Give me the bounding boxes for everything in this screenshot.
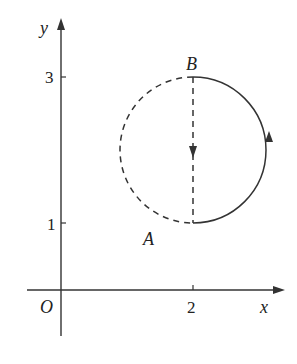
y-axis-label: y bbox=[38, 18, 48, 38]
coordinate-diagram: y x O 3 1 2 B A bbox=[0, 0, 297, 364]
x-axis-arrow-icon bbox=[273, 286, 285, 294]
x-axis-label: x bbox=[259, 297, 268, 317]
point-a-label: A bbox=[142, 229, 155, 249]
x-tick-label-2: 2 bbox=[187, 298, 196, 317]
y-tick-label-3: 3 bbox=[45, 68, 54, 87]
y-axis bbox=[57, 18, 65, 336]
x-axis bbox=[27, 286, 285, 294]
arrow-down-on-diameter-icon bbox=[189, 146, 197, 158]
circle-left-half-dashed bbox=[120, 77, 193, 223]
circle-right-half-solid bbox=[193, 77, 266, 223]
y-tick-label-1: 1 bbox=[47, 215, 56, 234]
arrow-up-on-arc-icon bbox=[265, 131, 273, 142]
point-b-label: B bbox=[186, 54, 197, 74]
y-axis-arrow-icon bbox=[57, 18, 65, 30]
origin-label: O bbox=[40, 297, 53, 317]
